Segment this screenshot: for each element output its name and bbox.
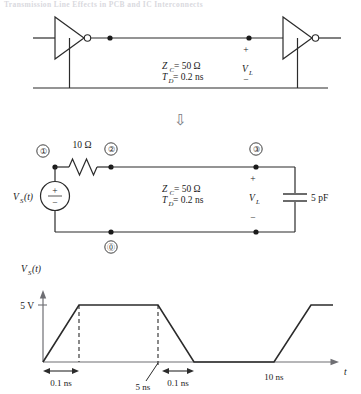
period-label: 10 ns xyxy=(264,372,284,382)
node-label-0: ⓪ xyxy=(107,243,115,252)
fall-arrow-left xyxy=(162,368,169,374)
fall-label: 0.1 ns xyxy=(167,378,189,388)
source-waveform-chart: V S (t) t 5 V 0.1 ns 5 ns 0.1 ns xyxy=(20,264,347,392)
chart-ylabel-symbol: V xyxy=(21,264,28,274)
rise1-label: 0.1 ns xyxy=(50,378,72,388)
top-vl-minus-sign: − xyxy=(243,75,248,85)
top-circuit: Z C = 50 Ω T D = 0.2 ns + V L − xyxy=(33,17,341,88)
fall-arrow-right xyxy=(187,368,194,374)
node-dot-driver-out xyxy=(107,35,112,40)
node-label-2: ② xyxy=(108,145,115,154)
resistor-icon xyxy=(69,159,97,175)
chart-ytick-label-5v: 5 V xyxy=(20,301,34,311)
receiver-inverter-bubble-icon xyxy=(312,35,318,41)
source-plus-sign: + xyxy=(52,186,57,196)
top-delay-symbol: T xyxy=(162,72,168,82)
mid-vl-plus-sign: + xyxy=(250,174,255,184)
rise1-arrow-right xyxy=(72,368,79,374)
mid-vl-minus-sign: − xyxy=(250,213,255,223)
mid-delay-value: = 0.2 ns xyxy=(173,195,204,205)
annotation-pulse-width: 5 ns xyxy=(136,363,158,392)
node-dot-0 xyxy=(108,229,113,234)
top-vl-plus-sign: + xyxy=(243,45,248,55)
mid-vl-subscript: L xyxy=(255,198,260,205)
top-impedance-symbol: Z xyxy=(162,61,168,71)
chart-y-axis-arrow xyxy=(40,290,46,299)
top-vl-symbol: V xyxy=(242,64,249,74)
source-symbol: V xyxy=(13,192,20,202)
chart-waveform-trace xyxy=(43,305,333,362)
mid-impedance-symbol: Z xyxy=(162,184,168,194)
node-dot-3 xyxy=(253,164,258,169)
chart-ylabel-arg: (t) xyxy=(32,264,41,275)
node-label-1: ① xyxy=(40,147,47,156)
resistor-value-label: 10 Ω xyxy=(73,140,92,150)
chart-x-axis-arrow xyxy=(331,359,340,365)
pulse-width-leader xyxy=(146,363,158,381)
top-delay-value: = 0.2 ns xyxy=(173,72,204,82)
driver-inverter-bubble-icon xyxy=(84,35,90,41)
source-minus-sign: − xyxy=(52,198,57,208)
annotation-fall-time: 0.1 ns xyxy=(162,368,194,388)
capacitor-value-label: 5 pF xyxy=(311,193,328,203)
mid-vl-symbol: V xyxy=(249,193,256,203)
annotation-rise-time-1: 0.1 ns xyxy=(43,368,79,388)
figure-transmission-line: Z C = 50 Ω T D = 0.2 ns + V L − ⇩ ① 10 Ω… xyxy=(0,0,361,394)
chart-xlabel: t xyxy=(344,367,347,377)
node-label-3: ③ xyxy=(253,145,260,154)
mid-delay-symbol: T xyxy=(162,195,168,205)
top-vl-subscript: L xyxy=(248,69,253,76)
node-dot-load xyxy=(246,35,251,40)
pulse-width-label: 5 ns xyxy=(136,382,151,392)
mid-circuit: ① 10 Ω ② ③ + − V S (t) ⓪ xyxy=(13,140,328,253)
transition-arrow-icon: ⇩ xyxy=(174,112,187,128)
source-argument: (t) xyxy=(24,192,33,203)
top-impedance-value: = 50 Ω xyxy=(174,61,201,71)
node-dot-3-bottom xyxy=(253,229,258,234)
mid-impedance-value: = 50 Ω xyxy=(174,184,201,194)
rise1-arrow-left xyxy=(43,368,50,374)
